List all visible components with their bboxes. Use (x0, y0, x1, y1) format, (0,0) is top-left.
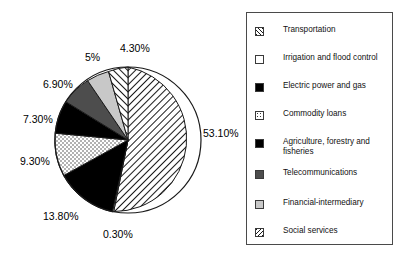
pie-label-social-services: 4.30% (120, 42, 150, 54)
legend-item-transportation[interactable]: Transportation (247, 25, 392, 51)
legend-label-agriculture-forestry-and-fisheries: Agriculture, forestry and fisheries (283, 137, 389, 157)
pie-chart-figure: 53.10% 0.30% 13.80% 9.30% 7.30% 6.90% 5%… (0, 0, 411, 263)
legend-swatch-transportation (255, 27, 264, 36)
pie-label-irrigation-and-flood-control: 0.30% (103, 228, 133, 240)
chart-legend: Transportation Irrigation and flood cont… (246, 12, 393, 245)
pie-label-transportation: 53.10% (203, 127, 239, 139)
legend-item-telecommunications[interactable]: Telecommunications (247, 168, 392, 194)
legend-label-telecommunications: Telecommunications (283, 168, 389, 178)
legend-item-social-services[interactable]: Social services (247, 226, 392, 252)
legend-label-irrigation-and-flood-control: Irrigation and flood control (283, 53, 389, 63)
legend-swatch-irrigation-and-flood-control (255, 55, 264, 64)
pie-label-financial-intermediary: 5% (85, 51, 100, 63)
legend-item-financial-intermediary[interactable]: Financial-intermediary (247, 198, 392, 224)
legend-label-transportation: Transportation (283, 25, 389, 35)
legend-item-agriculture-forestry-and-fisheries[interactable]: Agriculture, forestry and fisheries (247, 137, 392, 167)
legend-swatch-commodity-loans (255, 111, 264, 120)
legend-item-commodity-loans[interactable]: Commodity loans (247, 109, 392, 135)
legend-swatch-agriculture-forestry-and-fisheries (255, 139, 264, 148)
legend-label-financial-intermediary: Financial-intermediary (283, 198, 389, 208)
legend-label-social-services: Social services (283, 226, 389, 236)
pie-label-agriculture-forestry-and-fisheries: 7.30% (23, 113, 53, 125)
legend-swatch-financial-intermediary (255, 200, 264, 209)
legend-item-irrigation-and-flood-control[interactable]: Irrigation and flood control (247, 53, 392, 79)
legend-swatch-telecommunications (255, 170, 264, 179)
legend-item-electric-power-and-gas[interactable]: Electric power and gas (247, 81, 392, 107)
legend-label-commodity-loans: Commodity loans (283, 109, 389, 119)
legend-label-electric-power-and-gas: Electric power and gas (283, 81, 389, 91)
pie-label-telecommunications: 6.90% (43, 78, 73, 90)
pie-label-commodity-loans: 9.30% (20, 155, 50, 167)
pie-label-electric-power-and-gas: 13.80% (43, 210, 79, 222)
legend-swatch-social-services (255, 228, 264, 237)
legend-swatch-electric-power-and-gas (255, 83, 264, 92)
